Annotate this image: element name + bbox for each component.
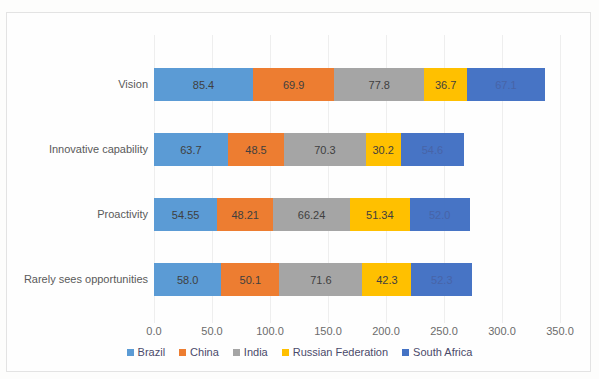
bar-segment-india: 77.8 [334, 68, 424, 101]
bar-value-label: 67.1 [495, 79, 516, 91]
category-label: Vision [8, 78, 148, 90]
bar-row: 58.050.171.642.352.3 [154, 263, 472, 296]
bar-value-label: 52.3 [431, 274, 452, 286]
legend-swatch-icon [233, 349, 240, 356]
bar-segment-brazil: 58.0 [154, 263, 221, 296]
gridline [560, 35, 561, 323]
legend-label: India [244, 346, 268, 358]
chart-legend: BrazilChinaIndiaRussian FederationSouth … [7, 346, 592, 358]
bar-segment-china: 48.21 [217, 198, 273, 231]
x-axis-tick-label: 300.0 [488, 325, 516, 337]
legend-item-china[interactable]: China [179, 346, 219, 358]
legend-swatch-icon [127, 349, 134, 356]
value-axis: 0.050.0100.0150.0200.0250.0300.0350.0 [154, 325, 560, 343]
bar-row: 63.748.570.330.254.6 [154, 133, 464, 166]
bar-segment-china: 48.5 [228, 133, 284, 166]
bar-value-label: 69.9 [283, 79, 304, 91]
x-axis-tick-label: 200.0 [372, 325, 400, 337]
legend-swatch-icon [282, 349, 289, 356]
x-axis-tick-label: 100.0 [256, 325, 284, 337]
bar-value-label: 77.8 [369, 79, 390, 91]
bar-value-label: 58.0 [177, 274, 198, 286]
bar-row: 85.469.977.836.767.1 [154, 68, 545, 101]
category-axis-labels: VisionInnovative capabilityProactivityRa… [7, 35, 148, 323]
bar-segment-russian-federation: 42.3 [362, 263, 411, 296]
bar-segment-south-africa: 67.1 [467, 68, 545, 101]
bar-value-label: 51.34 [366, 209, 394, 221]
legend-label: Brazil [138, 346, 166, 358]
x-axis-tick-label: 350.0 [546, 325, 574, 337]
x-axis-tick-label: 150.0 [314, 325, 342, 337]
plot-area: 85.469.977.836.767.163.748.570.330.254.6… [154, 35, 560, 323]
bar-value-label: 36.7 [435, 79, 456, 91]
bar-segment-south-africa: 54.6 [401, 133, 464, 166]
legend-swatch-icon [179, 349, 186, 356]
bar-segment-russian-federation: 30.2 [366, 133, 401, 166]
bar-segment-russian-federation: 36.7 [424, 68, 467, 101]
bar-row: 54.5548.2166.2451.3452.0 [154, 198, 470, 231]
legend-label: China [190, 346, 219, 358]
bar-segment-india: 66.24 [273, 198, 350, 231]
category-label: Proactivity [8, 208, 148, 220]
legend-label: Russian Federation [293, 346, 388, 358]
bar-value-label: 66.24 [298, 209, 326, 221]
legend-swatch-icon [402, 349, 409, 356]
bar-segment-china: 50.1 [221, 263, 279, 296]
bar-segment-russian-federation: 51.34 [350, 198, 410, 231]
category-label: Rarely sees opportunities [8, 273, 148, 285]
bar-value-label: 30.2 [372, 144, 393, 156]
bar-segment-china: 69.9 [253, 68, 334, 101]
bar-value-label: 85.4 [193, 79, 214, 91]
bar-value-label: 50.1 [240, 274, 261, 286]
bar-segment-south-africa: 52.0 [410, 198, 470, 231]
legend-item-brazil[interactable]: Brazil [127, 346, 166, 358]
bar-value-label: 54.6 [422, 144, 443, 156]
legend-label: South Africa [413, 346, 472, 358]
bar-value-label: 63.7 [180, 144, 201, 156]
category-label: Innovative capability [8, 143, 148, 155]
bar-value-label: 54.55 [172, 209, 200, 221]
bar-segment-brazil: 85.4 [154, 68, 253, 101]
bar-value-label: 52.0 [429, 209, 450, 221]
bar-segment-brazil: 54.55 [154, 198, 217, 231]
chart-title [0, 0, 599, 5]
x-axis-tick-label: 0.0 [146, 325, 161, 337]
bar-value-label: 71.6 [310, 274, 331, 286]
bar-segment-brazil: 63.7 [154, 133, 228, 166]
bar-segment-india: 71.6 [279, 263, 362, 296]
x-axis-tick-label: 50.0 [201, 325, 222, 337]
bar-value-label: 48.21 [231, 209, 259, 221]
x-axis-tick-label: 250.0 [430, 325, 458, 337]
legend-item-russian-federation[interactable]: Russian Federation [282, 346, 388, 358]
legend-item-india[interactable]: India [233, 346, 268, 358]
bar-segment-india: 70.3 [284, 133, 366, 166]
chart-frame: VisionInnovative capabilityProactivityRa… [6, 12, 591, 372]
bar-value-label: 48.5 [245, 144, 266, 156]
bar-value-label: 42.3 [376, 274, 397, 286]
bar-value-label: 70.3 [314, 144, 335, 156]
bar-segment-south-africa: 52.3 [411, 263, 472, 296]
legend-item-south-africa[interactable]: South Africa [402, 346, 472, 358]
